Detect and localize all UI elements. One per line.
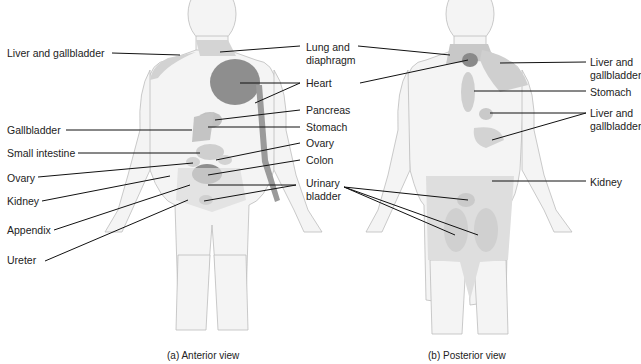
label-liver-and-gallbladder-posterior-upper: Liver and gallbladder bbox=[590, 56, 641, 81]
label-stomach-posterior: Stomach bbox=[590, 86, 631, 99]
label-colon: Colon bbox=[306, 154, 333, 167]
label-ovary-right: Ovary bbox=[306, 137, 334, 150]
label-lung-and-diaphragm: Lung and diaphragm bbox=[306, 41, 356, 66]
caption-posterior-view: (b) Posterior view bbox=[428, 350, 506, 361]
label-kidney-anterior: Kidney bbox=[7, 195, 39, 208]
label-ovary-left: Ovary bbox=[7, 172, 35, 185]
label-ureter: Ureter bbox=[7, 254, 36, 267]
label-liver-and-gallbladder-posterior-lower: Liver and gallbladder bbox=[590, 107, 641, 132]
label-appendix: Appendix bbox=[7, 224, 51, 237]
label-urinary-bladder: Urinary bladder bbox=[306, 177, 341, 202]
label-stomach-anterior: Stomach bbox=[306, 121, 347, 134]
label-heart: Heart bbox=[306, 77, 332, 90]
label-small-intestine: Small intestine bbox=[7, 147, 75, 160]
label-pancreas: Pancreas bbox=[306, 104, 350, 117]
caption-anterior-view: (a) Anterior view bbox=[167, 350, 239, 361]
label-kidney-posterior: Kidney bbox=[590, 176, 622, 189]
label-liver-and-gallbladder-anterior: Liver and gallbladder bbox=[7, 47, 104, 60]
label-gallbladder: Gallbladder bbox=[7, 124, 61, 137]
referred-pain-figure: Liver and gallbladder Lung and diaphragm… bbox=[0, 0, 641, 364]
